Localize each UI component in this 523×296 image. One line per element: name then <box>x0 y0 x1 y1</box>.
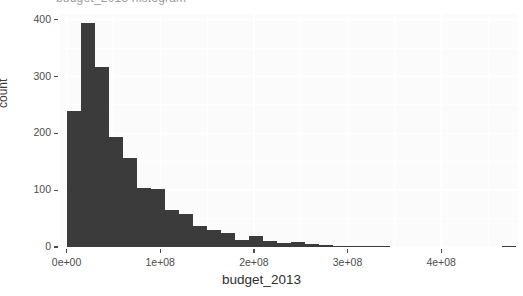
x-axis-tick-label: 0e+00 <box>52 256 82 268</box>
chart-title: budget_2013 histogram <box>56 0 186 5</box>
gridline-x-minor <box>488 14 489 247</box>
clipped-title-strip: budget_2013 histogram <box>0 0 523 7</box>
histogram-bar <box>263 241 277 247</box>
y-axis-tick-label: 400 <box>33 13 51 25</box>
y-axis-tick-label: 200 <box>33 126 51 138</box>
y-axis-tick-mark <box>54 19 58 20</box>
x-axis-label: budget_2013 <box>0 272 523 287</box>
gridline-x-major <box>440 14 441 247</box>
histogram-bar <box>179 214 193 247</box>
histogram-bar <box>123 158 137 247</box>
histogram-bar <box>348 246 362 247</box>
x-axis-tick-label: 4e+08 <box>426 256 456 268</box>
gridline-x-minor <box>207 14 208 247</box>
y-axis-tick-label: 300 <box>33 70 51 82</box>
histogram-bar <box>333 246 347 247</box>
gridline-y-minor <box>60 48 518 49</box>
y-axis-label: count <box>0 79 10 108</box>
histogram-bar <box>291 242 305 247</box>
gridline-y-major <box>60 76 518 77</box>
histogram-bar <box>137 188 151 247</box>
x-axis-tick-mark <box>160 249 161 253</box>
histogram-bar <box>235 240 249 247</box>
histogram-bar <box>319 245 333 247</box>
y-axis-tick-mark <box>54 246 58 247</box>
gridline-x-minor <box>394 14 395 247</box>
histogram-bar <box>502 246 516 247</box>
y-axis-tick-mark <box>54 190 58 191</box>
gridline-y-major <box>60 133 518 134</box>
gridline-x-major <box>347 14 348 247</box>
y-axis-tick-mark <box>54 76 58 77</box>
y-axis-tick-label: 100 <box>33 183 51 195</box>
gridline-x-major <box>253 14 254 247</box>
histogram-bar <box>67 111 81 247</box>
histogram-bar <box>81 23 95 247</box>
x-axis-tick-label: 1e+08 <box>145 256 175 268</box>
histogram-bar <box>95 67 109 247</box>
x-axis-tick-mark <box>441 249 442 253</box>
gridline-y-major <box>60 19 518 20</box>
gridline-x-minor <box>300 14 301 247</box>
histogram-bar <box>376 246 390 247</box>
histogram-bar <box>221 233 235 247</box>
x-axis-tick-label: 2e+08 <box>239 256 269 268</box>
histogram-bar <box>165 210 179 247</box>
histogram-figure: budget_2013 histogram 0100200300400 0e+0… <box>0 0 523 296</box>
y-axis-tick-mark <box>54 133 58 134</box>
x-axis-tick-mark <box>66 249 67 253</box>
histogram-bar <box>151 189 165 247</box>
histogram-bar <box>109 137 123 247</box>
histogram-bar <box>277 243 291 247</box>
histogram-bar <box>305 244 319 247</box>
plot-panel <box>60 14 518 247</box>
x-axis-tick-mark <box>253 249 254 253</box>
histogram-bar <box>193 226 207 247</box>
histogram-bar <box>249 236 263 247</box>
histogram-bar <box>207 230 221 247</box>
x-axis-tick-label: 3e+08 <box>333 256 363 268</box>
gridline-y-minor <box>60 104 518 105</box>
x-axis-tick-mark <box>347 249 348 253</box>
y-axis-tick-label: 0 <box>45 240 51 252</box>
histogram-bar <box>362 246 376 247</box>
